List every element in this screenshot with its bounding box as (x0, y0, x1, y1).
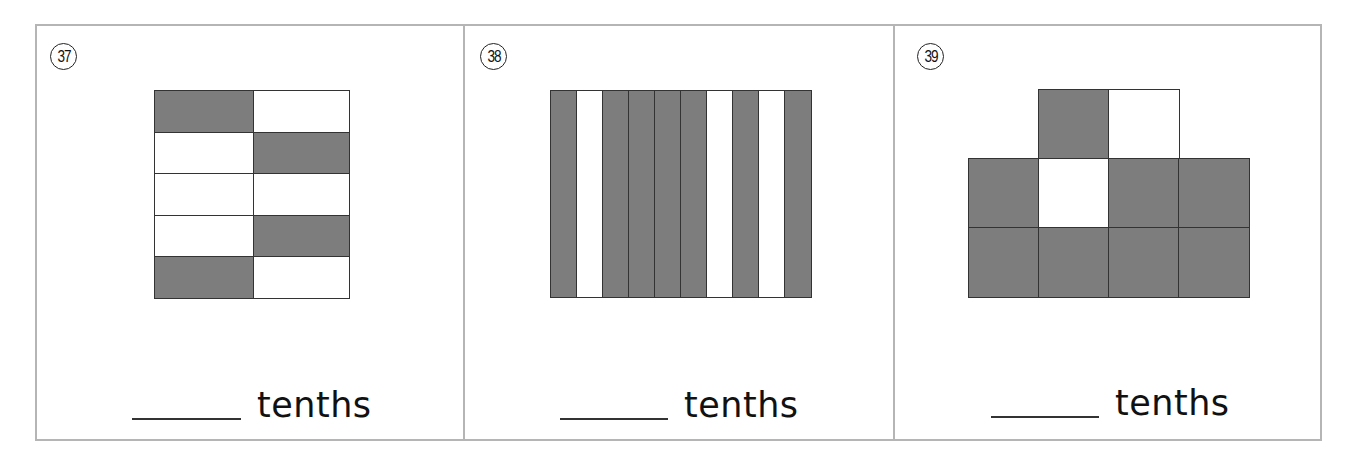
unshaded-part (1108, 89, 1180, 160)
unshaded-part (154, 173, 255, 216)
shaded-part (628, 90, 656, 298)
unit-label: tenths (257, 385, 372, 425)
unshaded-part (154, 132, 255, 175)
unshaded-part (1038, 158, 1110, 229)
shaded-part (732, 90, 760, 298)
unshaded-part (253, 173, 350, 216)
answer-blank[interactable] (560, 418, 668, 420)
shaded-part (968, 227, 1040, 298)
unshaded-part (154, 215, 255, 258)
shaded-part (602, 90, 630, 298)
fraction-figure-strips (550, 90, 810, 296)
shaded-part (1038, 227, 1110, 298)
shaded-part (154, 256, 255, 299)
shaded-part (1178, 227, 1250, 298)
shaded-part (654, 90, 682, 298)
unit-label: tenths (1115, 383, 1230, 423)
shaded-part (1108, 227, 1180, 298)
problem-number-badge: 38 (480, 43, 507, 70)
panel-divider (893, 24, 895, 441)
shaded-part (154, 90, 255, 133)
shaded-part (1178, 158, 1250, 229)
shaded-part (550, 90, 578, 298)
shaded-part (784, 90, 812, 298)
unshaded-part (253, 256, 350, 299)
answer-blank[interactable] (132, 418, 241, 420)
shaded-part (253, 132, 350, 175)
shaded-part (1108, 158, 1180, 229)
shaded-part (253, 215, 350, 258)
panel-divider (463, 24, 465, 441)
unshaded-part (706, 90, 734, 298)
problem-number-badge: 37 (50, 43, 77, 70)
unshaded-part (576, 90, 604, 298)
shaded-part (680, 90, 708, 298)
unshaded-part (253, 90, 350, 133)
unshaded-part (758, 90, 786, 298)
shaded-part (1038, 89, 1110, 160)
fraction-figure-grid (154, 90, 348, 298)
problem-number-badge: 39 (917, 43, 944, 70)
shaded-part (968, 158, 1040, 229)
fraction-figure-blocks (968, 89, 1248, 296)
unit-label: tenths (684, 385, 799, 425)
answer-blank[interactable] (991, 416, 1099, 418)
